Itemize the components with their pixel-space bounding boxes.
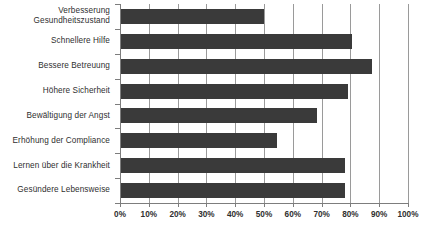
category-tick bbox=[115, 104, 120, 105]
bar bbox=[120, 133, 277, 148]
value-tick bbox=[235, 203, 236, 207]
category-label-line: Bessere Betreuung bbox=[0, 61, 110, 71]
category-label-line: Schnellere Hilfe bbox=[0, 36, 110, 46]
bar bbox=[120, 34, 352, 49]
category-tick bbox=[115, 4, 120, 5]
value-tick bbox=[120, 203, 121, 207]
value-tick bbox=[350, 203, 351, 207]
bar bbox=[120, 9, 264, 24]
category-label: Gesündere Lebensweise bbox=[0, 185, 110, 195]
bar bbox=[120, 108, 317, 123]
category-tick bbox=[115, 128, 120, 129]
category-label-line: Gesündere Lebensweise bbox=[0, 185, 110, 195]
plot-area bbox=[120, 4, 408, 203]
category-tick bbox=[115, 203, 120, 204]
value-tick-label: 100% bbox=[388, 210, 422, 220]
category-tick bbox=[115, 29, 120, 30]
value-tick bbox=[149, 203, 150, 207]
category-label: Höhere Sicherheit bbox=[0, 86, 110, 96]
gridline bbox=[379, 4, 380, 203]
value-tick bbox=[322, 203, 323, 207]
category-label: Bewältigung der Angst bbox=[0, 111, 110, 121]
gridline bbox=[408, 4, 409, 203]
category-tick bbox=[115, 178, 120, 179]
category-label: Schnellere Hilfe bbox=[0, 36, 110, 46]
horizontal-bar-chart: VerbesserungGesundheitszustandSchnellere… bbox=[0, 0, 422, 232]
category-label: Erhöhung der Compliance bbox=[0, 136, 110, 146]
value-tick bbox=[264, 203, 265, 207]
bar bbox=[120, 84, 348, 99]
value-axis: 0%10%20%30%40%50%60%70%80%90%100% bbox=[120, 203, 408, 232]
bar bbox=[120, 59, 372, 74]
value-tick bbox=[178, 203, 179, 207]
category-label-line: Verbesserung bbox=[0, 6, 110, 16]
category-label-line: Bewältigung der Angst bbox=[0, 111, 110, 121]
category-label-line: Höhere Sicherheit bbox=[0, 86, 110, 96]
category-label: VerbesserungGesundheitszustand bbox=[0, 6, 110, 26]
value-tick bbox=[408, 203, 409, 207]
category-label-line: Lernen über die Krankheit bbox=[0, 161, 110, 171]
category-tick bbox=[115, 54, 120, 55]
category-tick bbox=[115, 79, 120, 80]
category-label-line: Erhöhung der Compliance bbox=[0, 136, 110, 146]
category-label: Lernen über die Krankheit bbox=[0, 161, 110, 171]
category-axis: VerbesserungGesundheitszustandSchnellere… bbox=[0, 0, 114, 203]
category-label-line: Gesundheitszustand bbox=[0, 16, 110, 26]
category-label: Bessere Betreuung bbox=[0, 61, 110, 71]
value-tick bbox=[206, 203, 207, 207]
bar bbox=[120, 183, 345, 198]
value-tick bbox=[379, 203, 380, 207]
value-tick bbox=[293, 203, 294, 207]
category-tick bbox=[115, 153, 120, 154]
bar bbox=[120, 158, 345, 173]
